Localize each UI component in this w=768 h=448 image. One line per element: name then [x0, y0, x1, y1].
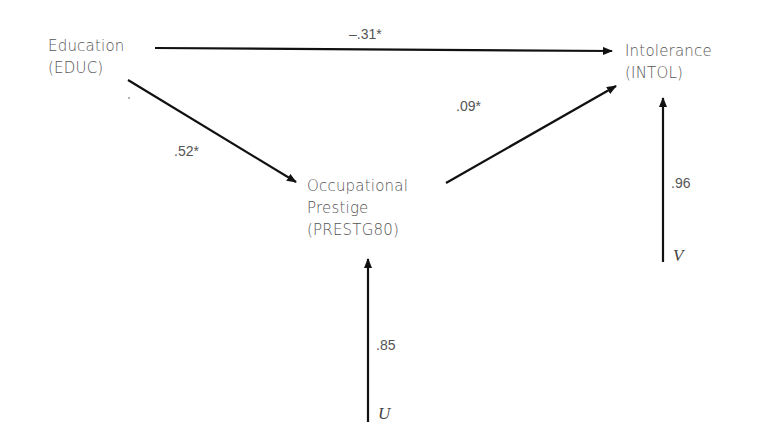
error-term-v: V: [673, 246, 683, 266]
node-education-label: Education: [48, 35, 124, 57]
coef-u-prestg: .85: [376, 337, 395, 353]
arrow-educ-to-prestg: [128, 80, 296, 182]
stray-dot: [128, 97, 130, 99]
node-prestige-code: (PRESTG80): [307, 219, 408, 241]
node-intolerance: Intolerance (INTOL): [625, 40, 712, 84]
node-occupational-prestige: Occupational Prestige (PRESTG80): [307, 175, 408, 241]
error-term-u: U: [378, 404, 390, 424]
node-prestige-label-1: Occupational: [307, 175, 408, 197]
node-education-code: (EDUC): [48, 57, 124, 79]
node-intolerance-label: Intolerance: [625, 40, 712, 62]
node-intolerance-code: (INTOL): [625, 62, 712, 84]
node-prestige-label-2: Prestige: [307, 197, 408, 219]
arrow-educ-to-intol: [155, 48, 612, 51]
node-education: Education (EDUC): [48, 35, 124, 79]
coef-prestg-intol: .09*: [456, 98, 481, 114]
coef-v-intol: .96: [671, 175, 690, 191]
coef-educ-prestg: .52*: [174, 143, 199, 159]
coef-educ-intol: –.31*: [349, 26, 382, 42]
